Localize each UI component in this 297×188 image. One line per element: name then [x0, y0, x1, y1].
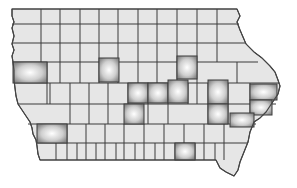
- county-highlight-pottawattamie: [37, 124, 67, 143]
- county-highlight-tama: [168, 80, 188, 103]
- county-highlight-muscatine: [230, 113, 254, 127]
- county-highlight-linn: [208, 80, 228, 104]
- iowa-county-map: [0, 0, 297, 188]
- county-highlight-monroe: [175, 143, 195, 160]
- county-highlight-jackson: [250, 84, 277, 100]
- county-highlight-webster: [99, 58, 119, 82]
- county-highlight-marshall: [148, 83, 168, 103]
- county-highlight-monona: [13, 62, 47, 83]
- county-highlight-black-hawk: [177, 56, 197, 79]
- county-highlight-johnson: [208, 104, 228, 124]
- county-highlight-story: [128, 83, 148, 103]
- county-highlight-polk: [124, 104, 144, 124]
